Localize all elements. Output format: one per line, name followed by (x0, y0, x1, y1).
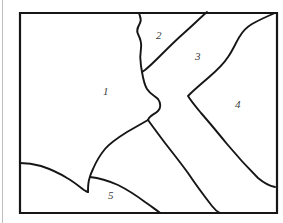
region-label-2: 2 (156, 30, 162, 41)
region-label-1: 1 (103, 86, 109, 97)
region-map-drawing (0, 0, 283, 223)
region-label-4: 4 (235, 99, 241, 110)
region-label-5: 5 (108, 190, 114, 201)
figure-root: 1 2 3 4 5 (0, 0, 283, 223)
region-label-3: 3 (195, 51, 201, 62)
map-frame (20, 13, 277, 213)
